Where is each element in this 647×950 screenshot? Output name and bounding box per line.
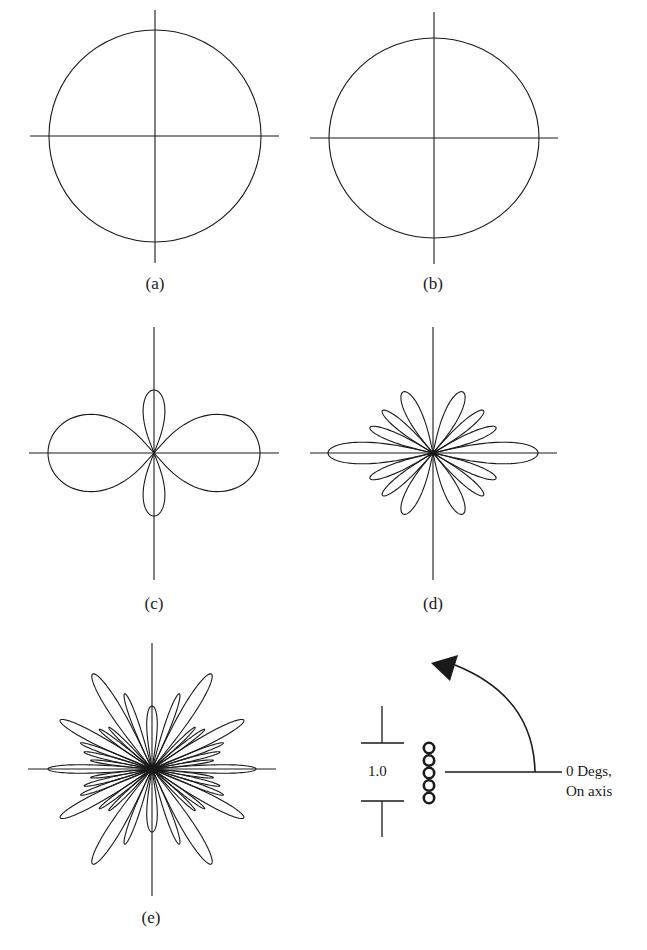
polar-diagram-figure bbox=[0, 0, 647, 950]
panel-label-a: (a) bbox=[125, 274, 185, 294]
coil-turn bbox=[424, 755, 434, 765]
radiation-lobe bbox=[370, 453, 433, 480]
panel-label-e: (e) bbox=[121, 908, 181, 928]
panel-d-multi-lobe-pattern bbox=[310, 327, 557, 580]
panel-label-d: (d) bbox=[403, 594, 463, 614]
radiation-lobe bbox=[370, 426, 433, 453]
rotation-arc bbox=[455, 665, 535, 772]
coil-source-icon bbox=[424, 743, 434, 803]
coil-turn bbox=[424, 743, 434, 753]
panel-a-omnidirectional-pattern bbox=[30, 10, 279, 263]
coil-turn bbox=[424, 768, 434, 778]
rotation-arrowhead-icon bbox=[431, 655, 458, 681]
legend-diagram bbox=[361, 655, 562, 837]
radiation-lobe bbox=[433, 426, 496, 453]
angle-label-line2: On axis bbox=[566, 782, 612, 801]
panel-c-four-lobe-pattern bbox=[29, 327, 279, 580]
radiation-lobe bbox=[433, 453, 496, 480]
panel-b-elliptical-pattern bbox=[310, 12, 558, 264]
scale-value-label: 1.0 bbox=[368, 762, 387, 781]
coil-turn bbox=[424, 780, 434, 790]
panel-e-many-lobe-pattern bbox=[28, 643, 276, 896]
angle-label-line1: 0 Degs, bbox=[566, 762, 612, 781]
coil-turn bbox=[424, 793, 434, 803]
panel-label-c: (c) bbox=[124, 594, 184, 614]
panel-label-b: (b) bbox=[403, 274, 463, 294]
